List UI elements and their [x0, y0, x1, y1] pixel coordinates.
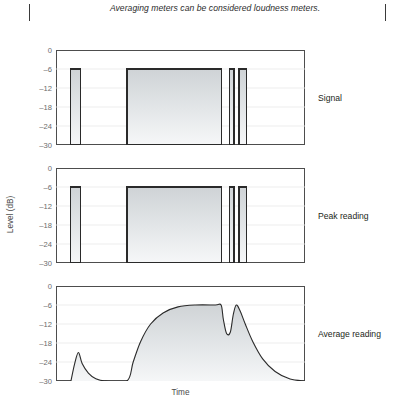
y-tick-label: –24	[39, 122, 52, 131]
y-tick-label: –30	[39, 377, 52, 386]
y-tick-label: 0	[48, 282, 52, 291]
y-tick-label: –6	[44, 65, 52, 74]
x-axis-title: Time	[56, 388, 305, 397]
y-tick-label: 0	[48, 164, 52, 173]
panel-label-average: Average reading	[318, 329, 381, 339]
crop-mark-left-icon	[29, 4, 30, 21]
y-tick-label: –12	[39, 202, 52, 211]
y-tick-labels-average: 0–6–12–18–24–30	[28, 286, 52, 381]
y-tick-label: –24	[39, 240, 52, 249]
crop-mark-right-icon	[385, 4, 386, 21]
plot-area-average	[56, 286, 305, 381]
y-tick-label: –24	[39, 358, 52, 367]
caption-text: Averaging meters can be considered loudn…	[55, 3, 375, 14]
y-tick-label: –30	[39, 259, 52, 268]
y-axis-title: Level (dB)	[6, 183, 15, 247]
y-tick-label: –18	[39, 103, 52, 112]
plot-area-signal	[56, 50, 305, 145]
chart-panel-signal: 0–6–12–18–24–30 Signal	[56, 50, 305, 145]
y-tick-label: –12	[39, 84, 52, 93]
y-tick-label: –30	[39, 141, 52, 150]
chart-panel-peak: 0–6–12–18–24–30 Peak reading	[56, 168, 305, 263]
y-tick-labels-signal: 0–6–12–18–24–30	[28, 50, 52, 145]
y-tick-label: –6	[44, 301, 52, 310]
y-tick-label: –6	[44, 183, 52, 192]
panel-label-signal: Signal	[318, 93, 342, 103]
y-tick-label: –18	[39, 221, 52, 230]
figure-body: Level (dB) Time 0–6–12–18–24–30 Signal 0…	[0, 28, 409, 410]
y-tick-labels-peak: 0–6–12–18–24–30	[28, 168, 52, 263]
chart-panel-average: 0–6–12–18–24–30 Average reading	[56, 286, 305, 381]
figure-caption-row: Averaging meters can be considered loudn…	[0, 0, 409, 28]
y-tick-label: –18	[39, 339, 52, 348]
y-tick-label: 0	[48, 46, 52, 55]
panel-label-peak: Peak reading	[318, 211, 369, 221]
y-tick-label: –12	[39, 320, 52, 329]
plot-area-peak	[56, 168, 305, 263]
